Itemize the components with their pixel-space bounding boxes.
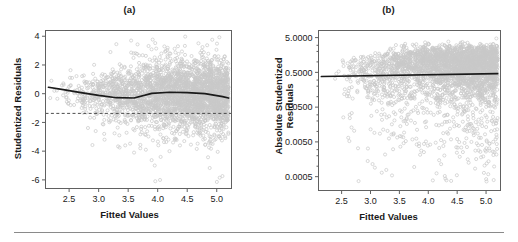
panel-a-scatter-points xyxy=(49,35,230,183)
svg-text:4: 4 xyxy=(34,31,39,41)
figure-container: (a) Fitted Values Studentized Residuals … xyxy=(0,0,518,242)
svg-text:0: 0 xyxy=(34,89,39,99)
svg-text:3.5: 3.5 xyxy=(122,194,135,204)
svg-text:5.0: 5.0 xyxy=(480,196,493,206)
svg-text:5.0000: 5.0000 xyxy=(285,33,313,43)
panel-b-y-ticks xyxy=(315,38,319,177)
svg-text:0.5000: 0.5000 xyxy=(285,68,313,78)
svg-text:-6: -6 xyxy=(31,175,39,185)
svg-text:5.0: 5.0 xyxy=(210,194,223,204)
svg-text:4.0: 4.0 xyxy=(151,194,164,204)
svg-text:0.0500: 0.0500 xyxy=(285,102,313,112)
panel-a-plot: 420-2-4-6 2.53.03.54.04.55.0 xyxy=(0,0,259,232)
svg-text:-4: -4 xyxy=(31,146,39,156)
svg-text:3.0: 3.0 xyxy=(92,194,105,204)
svg-text:2.5: 2.5 xyxy=(63,194,76,204)
panel-b-x-tick-labels: 2.53.03.54.04.55.0 xyxy=(335,196,492,206)
panel-b-x-ticks xyxy=(342,191,486,195)
svg-text:0.0005: 0.0005 xyxy=(285,172,313,182)
svg-text:2.5: 2.5 xyxy=(335,196,348,206)
panel-b-scatter-points xyxy=(334,37,500,183)
svg-text:4.5: 4.5 xyxy=(451,196,464,206)
panel-a-y-tick-labels: 420-2-4-6 xyxy=(31,31,39,185)
panel-b-y-tick-labels: 5.00000.50000.05000.00500.0005 xyxy=(285,33,313,182)
svg-text:3.5: 3.5 xyxy=(393,196,406,206)
svg-text:2: 2 xyxy=(34,60,39,70)
panel-b-plot: 5.00000.50000.05000.00500.0005 2.53.03.5… xyxy=(259,0,518,232)
svg-text:-2: -2 xyxy=(31,118,39,128)
panel-a-y-ticks xyxy=(42,36,46,180)
svg-text:4.5: 4.5 xyxy=(181,194,194,204)
panel-a: (a) Fitted Values Studentized Residuals … xyxy=(0,0,259,232)
panel-a-x-ticks xyxy=(69,189,217,193)
panel-a-x-tick-labels: 2.53.03.54.04.55.0 xyxy=(63,194,223,204)
svg-text:4.0: 4.0 xyxy=(422,196,435,206)
panel-b: (b) Fitted Values Absolute Studentized R… xyxy=(259,0,518,232)
svg-text:0.0050: 0.0050 xyxy=(285,137,313,147)
svg-text:3.0: 3.0 xyxy=(364,196,377,206)
footer-divider-rule xyxy=(14,232,504,233)
